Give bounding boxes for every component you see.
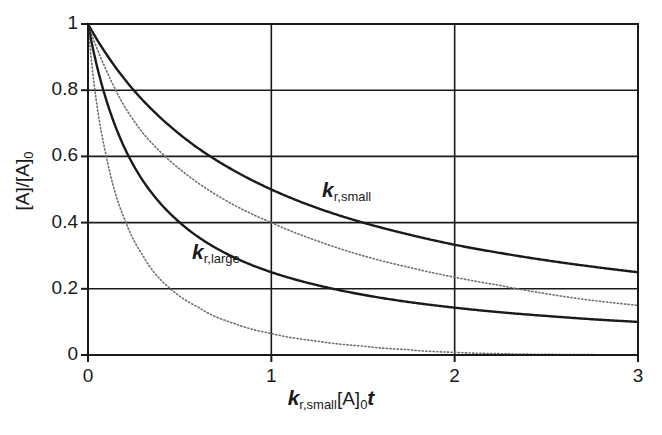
curve-label-k-r-small: kr,small bbox=[322, 178, 371, 202]
curve-label-k-r-large: kr,large bbox=[192, 240, 240, 264]
x-tick-label: 1 bbox=[251, 365, 291, 387]
curve-dotted-upper bbox=[88, 24, 638, 305]
x-axis-title-k: k bbox=[288, 386, 300, 409]
y-tick-label: 1 bbox=[18, 12, 78, 34]
x-tick-label: 2 bbox=[435, 365, 475, 387]
curve-label-large-k: k bbox=[192, 240, 204, 263]
y-axis-title: [A]/[A]0 bbox=[12, 96, 34, 266]
x-axis-title: kr,small[A]0t bbox=[0, 386, 662, 410]
x-axis-title-sub0: 0 bbox=[360, 397, 367, 412]
x-axis-title-bracket: [A] bbox=[337, 388, 360, 409]
curve-k-r-small bbox=[88, 24, 638, 272]
x-tick-label: 0 bbox=[68, 365, 108, 387]
y-tick-label: 0 bbox=[18, 343, 78, 365]
curve-k-r-large bbox=[88, 24, 638, 322]
y-axis-title-main: [A]/[A] bbox=[12, 159, 33, 211]
curve-label-large-subscript: r,large bbox=[204, 251, 240, 266]
curve-label-small-k: k bbox=[322, 178, 334, 201]
x-axis-title-t: t bbox=[367, 386, 374, 409]
x-axis-title-subscript: r,small bbox=[299, 397, 337, 412]
curve-label-small-subscript: r,small bbox=[334, 189, 372, 204]
y-axis-title-subscript: 0 bbox=[21, 152, 36, 159]
x-tick-label: 3 bbox=[618, 365, 658, 387]
chart-figure: 00.20.40.60.81 0123 [A]/[A]0 kr,small[A]… bbox=[0, 0, 662, 435]
y-tick-label: 0.2 bbox=[18, 277, 78, 299]
